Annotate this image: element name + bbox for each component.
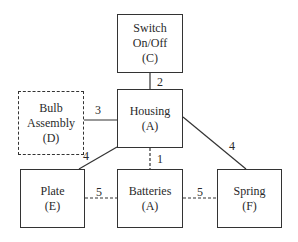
node-housing-line2: (A): [142, 119, 159, 134]
node-bulb-assembly: Bulb Assembly (D): [18, 91, 84, 155]
edge-label-housing-spring: 4: [229, 140, 235, 152]
edge-label-housing-batteries: 1: [157, 153, 163, 165]
node-plate: Plate (E): [20, 169, 85, 228]
edge-housing-spring: [183, 117, 246, 169]
edge-label-switch-housing: 2: [157, 76, 163, 88]
node-bulb-line3: (D): [43, 131, 60, 146]
node-switch-line3: (C): [142, 51, 158, 66]
node-batteries-line1: Batteries: [129, 184, 172, 199]
edge-label-batteries-spring: 5: [197, 186, 203, 198]
edge-label-bulb-housing: 3: [95, 104, 101, 116]
node-plate-line2: (E): [45, 199, 60, 214]
edge-label-housing-plate: 4: [83, 150, 89, 162]
node-bulb-line2: Assembly: [27, 116, 75, 131]
node-spring: Spring (F): [217, 169, 282, 228]
node-spring-line2: (F): [242, 199, 257, 214]
node-switch: Switch On/Off (C): [117, 14, 183, 73]
node-batteries-line2: (A): [142, 199, 159, 214]
node-spring-line1: Spring: [233, 184, 265, 199]
node-housing-line1: Housing: [130, 104, 171, 119]
node-switch-line1: Switch: [133, 21, 166, 36]
node-batteries: Batteries (A): [117, 169, 183, 228]
edge-label-plate-batteries: 5: [96, 186, 102, 198]
node-plate-line1: Plate: [41, 184, 65, 199]
node-switch-line2: On/Off: [133, 36, 167, 51]
node-bulb-line1: Bulb: [39, 101, 62, 116]
node-housing: Housing (A): [117, 89, 183, 148]
